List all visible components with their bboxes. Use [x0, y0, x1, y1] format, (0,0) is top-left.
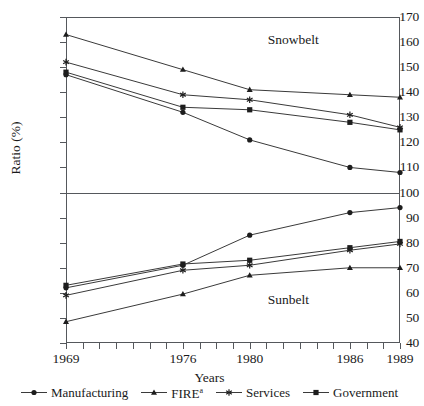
x-tick-mark: [266, 343, 267, 349]
y-tick-mark: [60, 218, 66, 219]
star-marker-icon: [216, 387, 242, 398]
x-tick-mark: [216, 343, 217, 349]
y-tick-mark: [60, 318, 66, 319]
x-tick-mark: [233, 343, 234, 349]
x-tick-mark: [350, 343, 351, 349]
legend-label: Manufacturing: [51, 386, 128, 399]
y-tick-label: 150: [385, 60, 419, 74]
legend-item-services[interactable]: Services: [216, 386, 290, 399]
y-tick-label: 160: [385, 35, 419, 49]
x-tick-label: 1980: [220, 352, 280, 366]
x-tick-mark: [133, 343, 134, 349]
x-tick-label: 1976: [153, 352, 213, 366]
y-tick-label: 90: [385, 211, 419, 225]
y-tick-label: 130: [385, 110, 419, 124]
x-tick-mark: [333, 343, 334, 349]
x-tick-mark: [116, 343, 117, 349]
legend-footnote-marker: a: [199, 386, 203, 395]
x-tick-mark: [250, 343, 251, 349]
x-tick-mark: [66, 343, 67, 349]
y-tick-mark: [60, 42, 66, 43]
plot-frame: [66, 17, 400, 343]
y-axis-title: Ratio (%): [8, 88, 24, 208]
region-label-sunbelt: Sunbelt: [268, 292, 309, 308]
circle-marker-icon: [31, 390, 36, 395]
y-tick-mark: [60, 92, 66, 93]
x-tick-mark: [150, 343, 151, 349]
y-tick-label: 110: [385, 160, 419, 174]
y-tick-mark: [60, 17, 66, 18]
legend-item-government[interactable]: Government: [303, 386, 398, 399]
x-tick-mark: [283, 343, 284, 349]
x-tick-label: 1989: [370, 352, 424, 366]
y-tick-mark: [60, 243, 66, 244]
legend-label: Government: [333, 386, 398, 399]
x-tick-mark: [317, 343, 318, 349]
y-tick-label: 120: [385, 135, 419, 149]
y-tick-mark: [60, 167, 66, 168]
square-marker-icon: [303, 387, 329, 398]
y-tick-label: 50: [385, 311, 419, 325]
legend-item-fire[interactable]: FIREa: [141, 384, 203, 400]
y-tick-mark: [60, 142, 66, 143]
y-tick-mark: [60, 67, 66, 68]
y-tick-label: 40: [385, 336, 419, 350]
x-tick-mark: [183, 343, 184, 349]
y-tick-mark: [60, 193, 66, 194]
chart-legend: ManufacturingFIREaServicesGovernment: [0, 384, 419, 400]
y-tick-mark: [60, 117, 66, 118]
x-tick-mark: [83, 343, 84, 349]
y-tick-label: 60: [385, 286, 419, 300]
x-tick-label: 1969: [36, 352, 96, 366]
y-tick-label: 100: [385, 186, 419, 200]
x-tick-mark: [400, 343, 401, 349]
y-tick-label: 70: [385, 261, 419, 275]
y-tick-mark: [60, 293, 66, 294]
square-marker-icon: [313, 390, 318, 395]
y-tick-label: 80: [385, 236, 419, 250]
circle-marker-icon: [21, 387, 47, 398]
x-tick-mark: [367, 343, 368, 349]
reference-line-100: [66, 193, 400, 194]
y-tick-label: 140: [385, 85, 419, 99]
x-tick-mark: [300, 343, 301, 349]
legend-item-manufacturing[interactable]: Manufacturing: [21, 386, 128, 399]
x-tick-mark: [200, 343, 201, 349]
triangle-marker-icon: [141, 387, 167, 398]
x-tick-mark: [99, 343, 100, 349]
legend-label: FIREa: [171, 384, 203, 400]
y-tick-label: 170: [385, 10, 419, 24]
legend-label: Services: [246, 386, 290, 399]
region-label-snowbelt: Snowbelt: [268, 32, 319, 48]
x-tick-mark: [383, 343, 384, 349]
y-tick-mark: [60, 268, 66, 269]
x-tick-mark: [166, 343, 167, 349]
